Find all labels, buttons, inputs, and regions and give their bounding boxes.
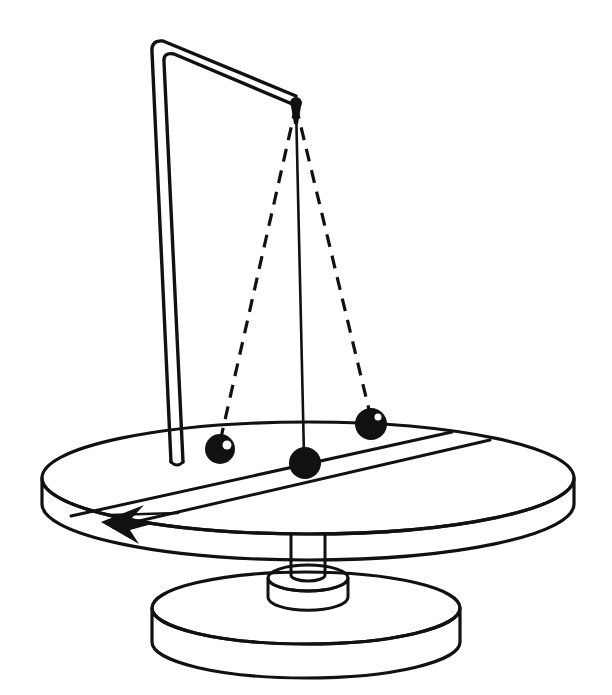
bent-tube-support-group <box>152 41 297 465</box>
support-tube-foot-cap <box>171 462 183 465</box>
bob-center-sphere <box>289 447 321 479</box>
bob-left-highlight <box>223 441 232 450</box>
bob-left-sphere <box>205 434 235 464</box>
string-center-solid <box>296 106 304 455</box>
bob-right-highlight <box>375 414 382 421</box>
pendulum-strings-group <box>220 106 371 455</box>
string-left-dashed <box>220 106 296 442</box>
bob-right-sphere <box>355 408 387 440</box>
drive-shaft-group <box>291 534 325 581</box>
motor-hub-top-face <box>268 565 348 591</box>
physics-figure-canvas <box>0 0 612 695</box>
turntable-band-line-upper <box>71 432 452 516</box>
rotation-arrow-head <box>101 505 152 544</box>
turntable-group[interactable] <box>42 422 574 560</box>
pendulum-bob-left <box>205 434 235 464</box>
pendulum-bob-right <box>355 408 387 440</box>
apparatus-diagram <box>0 0 612 695</box>
base-disk-group <box>152 572 460 678</box>
motor-hub-side-wall <box>268 578 348 610</box>
support-tube-inner-edge <box>164 54 297 462</box>
base-disk-top-face <box>152 572 460 644</box>
string-right-dashed <box>296 106 371 418</box>
pendulum-bob-center <box>289 447 321 479</box>
drive-shaft-body <box>291 534 325 581</box>
